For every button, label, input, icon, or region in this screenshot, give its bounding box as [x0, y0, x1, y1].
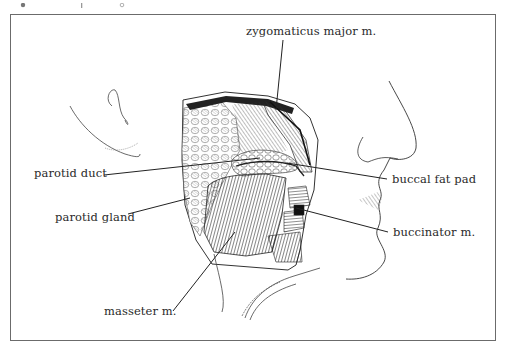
leader-parotid-gland	[128, 198, 190, 214]
nose-outline	[384, 81, 416, 170]
label-parotid-duct: parotid duct	[34, 168, 107, 180]
label-parotid-gland: parotid gland	[55, 212, 135, 224]
label-buccal-fat-pad: buccal fat pad	[392, 174, 476, 186]
lips-chin-outline	[346, 170, 385, 279]
label-zygomaticus-major: zygomaticus major m.	[246, 26, 376, 38]
leader-buccinator	[296, 208, 388, 232]
label-buccinator: buccinator m.	[393, 227, 475, 239]
ear-outline	[70, 90, 140, 157]
label-masseter: masseter m.	[104, 306, 177, 318]
lip-hatch	[358, 192, 382, 210]
